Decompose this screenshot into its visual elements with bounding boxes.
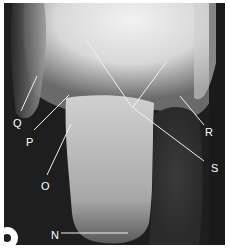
label-r: R	[205, 127, 213, 138]
xray-image: N O P Q R S	[4, 3, 225, 245]
label-n: N	[51, 230, 59, 241]
label-s: S	[211, 163, 218, 174]
label-q: Q	[13, 118, 22, 129]
xray-drawing	[4, 3, 225, 245]
label-p: P	[26, 137, 33, 148]
label-o: O	[41, 181, 50, 192]
